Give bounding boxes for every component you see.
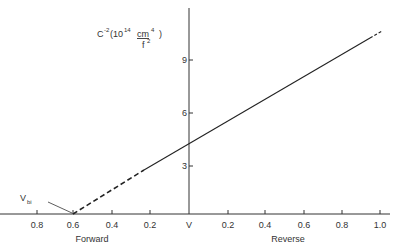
- x-tick-label: 0.6: [298, 220, 311, 230]
- svg-text:14: 14: [124, 27, 131, 33]
- extrapolated-segment-reverse: [370, 31, 382, 38]
- x-tick-label: 0.4: [259, 220, 272, 230]
- x-tick-label: 0.2: [144, 220, 157, 230]
- chart: 0.8 0.6 0.4 0.2 V 0.2 0.4 0.6 0.8 1.0 Fo…: [0, 0, 395, 245]
- svg-text:C: C: [97, 29, 104, 39]
- x-label-reverse: Reverse: [271, 234, 305, 244]
- x-ticks: [37, 210, 380, 214]
- vbi-annotation: V bi: [20, 193, 72, 213]
- svg-text:bi: bi: [27, 199, 32, 205]
- data-series: [73, 31, 382, 214]
- y-tick-label: 6: [182, 108, 187, 118]
- y-tick-label: 9: [182, 55, 187, 65]
- y-tick-label: 3: [182, 161, 187, 171]
- y-axis-label: C -2 (10 14 cm 4 ) f 2: [97, 27, 162, 50]
- svg-text:(10: (10: [110, 29, 123, 39]
- x-tick-label: 0.4: [106, 220, 119, 230]
- svg-text:V: V: [20, 193, 26, 203]
- x-tick-label: 0.8: [336, 220, 349, 230]
- y-ticks: [189, 60, 193, 166]
- svg-text:2: 2: [147, 38, 151, 44]
- svg-text:f: f: [142, 40, 145, 50]
- measured-segment: [144, 38, 370, 170]
- x-axis-center-label: V: [186, 220, 192, 230]
- svg-text:): ): [159, 29, 162, 39]
- x-tick-label: 0.8: [31, 220, 44, 230]
- svg-text:4: 4: [151, 27, 155, 33]
- extrapolated-segment-forward: [73, 170, 144, 214]
- x-tick-label: 1.0: [374, 220, 387, 230]
- x-tick-label: 0.2: [222, 220, 235, 230]
- x-label-forward: Forward: [75, 234, 108, 244]
- x-tick-label: 0.6: [67, 220, 80, 230]
